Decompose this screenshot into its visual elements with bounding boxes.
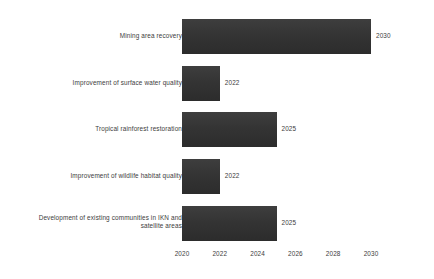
bar (182, 159, 220, 194)
x-axis-tick-label: 2030 (351, 250, 391, 258)
category-label: Mining area recovery (6, 32, 182, 40)
category-label: Improvement of wildlife habitat quality (6, 172, 182, 180)
bar (182, 19, 371, 54)
x-axis-tick-label: 2022 (200, 250, 240, 258)
category-label: Tropical rainforest restoration (6, 125, 182, 133)
category-label: Improvement of surface water quality (6, 79, 182, 87)
bar-value-label: 2022 (225, 79, 240, 87)
x-axis-tick-label: 2024 (238, 250, 278, 258)
bar (182, 112, 277, 147)
bar-value-label: 2025 (282, 219, 297, 227)
x-axis-tick-label: 2028 (313, 250, 353, 258)
x-axis-tick-label: 2020 (162, 250, 202, 258)
bar (182, 66, 220, 101)
x-axis-tick-label: 2026 (275, 250, 315, 258)
category-label: Development of existing communities in I… (6, 214, 182, 231)
bar (182, 206, 277, 241)
bar-value-label: 2030 (376, 32, 391, 40)
bar-value-label: 2022 (225, 172, 240, 180)
horizontal-bar-chart: Mining area recovery 2030 Improvement of… (0, 0, 434, 279)
bar-value-label: 2025 (282, 125, 297, 133)
